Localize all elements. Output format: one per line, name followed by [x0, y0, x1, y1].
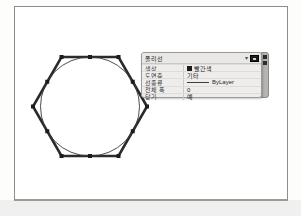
grip-point[interactable]	[45, 129, 49, 133]
hexagon-polyline[interactable]	[33, 57, 147, 156]
linetype-value-text: ByLayer	[212, 79, 234, 85]
inscribed-circle[interactable]	[41, 57, 140, 156]
grip-point[interactable]	[60, 154, 64, 158]
grip-point[interactable]	[31, 105, 35, 109]
grip-point[interactable]	[88, 154, 92, 158]
chevron-down-icon[interactable]: ▾	[245, 55, 248, 61]
close-icon[interactable]	[263, 55, 267, 59]
closed-value-text: 예	[187, 92, 193, 101]
customize-button[interactable]	[250, 55, 259, 62]
property-label: 닫기	[142, 94, 184, 100]
grip-point[interactable]	[88, 55, 92, 59]
grip-point[interactable]	[131, 129, 135, 133]
property-value[interactable]: ByLayer	[184, 79, 261, 85]
quick-properties-titlebar: 폴리선 ▾	[142, 53, 261, 64]
grip-point[interactable]	[131, 80, 135, 84]
linetype-preview-icon	[187, 82, 209, 83]
grip-point[interactable]	[117, 55, 121, 59]
property-row-closed[interactable]: 닫기 예	[142, 93, 261, 100]
property-label: 선종류	[142, 79, 184, 85]
property-value[interactable]: 기타	[184, 71, 261, 80]
property-row-linetype[interactable]: 선종류 ByLayer	[142, 78, 261, 85]
drawing-canvas[interactable]	[0, 0, 301, 216]
layer-value-text: 기타	[187, 71, 199, 80]
page: 폴리선 ▾ 색상 빨간색 도면층 기타 선종류 ByLayer	[0, 0, 301, 216]
palette-side-toolbar	[261, 52, 269, 98]
quick-properties-panel: 폴리선 ▾ 색상 빨간색 도면층 기타 선종류 ByLayer	[141, 52, 262, 98]
property-value[interactable]: 예	[184, 92, 261, 101]
property-row-layer[interactable]: 도면층 기타	[142, 71, 261, 78]
grip-point[interactable]	[117, 154, 121, 158]
grip-point[interactable]	[45, 80, 49, 84]
grip-point[interactable]	[145, 105, 149, 109]
options-icon[interactable]	[263, 61, 267, 65]
object-type-label[interactable]: 폴리선	[145, 54, 163, 63]
grip-point[interactable]	[60, 55, 64, 59]
property-label: 도면층	[142, 72, 184, 78]
property-label: 색상	[142, 65, 184, 71]
property-label: 전체 폭	[142, 87, 184, 93]
